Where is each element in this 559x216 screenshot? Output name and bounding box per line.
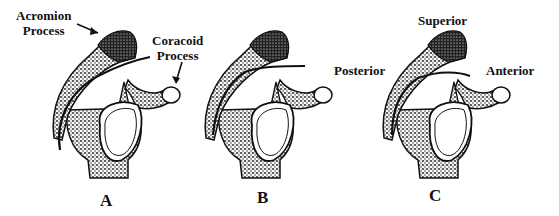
coracoid-label-line2: Process — [152, 48, 203, 63]
panel-b-illustration — [205, 31, 332, 178]
scapula-illustrations — [0, 0, 559, 216]
superior-label: Superior — [418, 13, 467, 28]
anterior-label: Anterior — [486, 63, 534, 78]
coracoid-process-label: Coracoid Process — [152, 33, 203, 63]
coracoid-label-line1: Coracoid — [152, 33, 203, 48]
acromion-label-line1: Acromion — [16, 8, 71, 23]
panel-letter-a: A — [100, 191, 112, 211]
acromion-label-line2: Process — [16, 23, 71, 38]
panel-c-illustration — [383, 31, 510, 178]
panel-letter-c: C — [429, 186, 441, 206]
panel-letter-b: B — [257, 188, 268, 208]
posterior-label: Posterior — [334, 63, 385, 78]
acromion-process-label: Acromion Process — [16, 8, 71, 38]
